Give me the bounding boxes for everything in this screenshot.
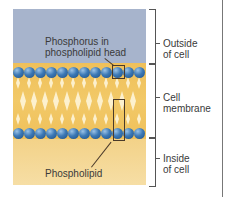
page-divider-line bbox=[222, 0, 223, 197]
phosphorus-highlight-box bbox=[112, 65, 125, 79]
bottom-phospholipid-heads bbox=[13, 128, 146, 140]
outside-of-cell-label: Outside of cell bbox=[163, 38, 197, 60]
inside-of-cell-label: Inside of cell bbox=[163, 153, 190, 175]
phospholipid-label: Phospholipid bbox=[45, 168, 102, 179]
phospholipid-highlight-box bbox=[113, 99, 125, 141]
membrane-bracket bbox=[149, 64, 156, 138]
top-phospholipid-heads bbox=[13, 67, 146, 79]
inside-bracket bbox=[149, 138, 156, 187]
fatty-acid-tails bbox=[13, 71, 146, 131]
phosphorus-label: Phosphorus in phospholipid head bbox=[45, 36, 126, 58]
membrane-diagram: Phosphorus in phospholipid head Phosphol… bbox=[13, 9, 146, 185]
cell-membrane-label: Cell membrane bbox=[163, 92, 211, 114]
outside-bracket bbox=[149, 9, 156, 64]
